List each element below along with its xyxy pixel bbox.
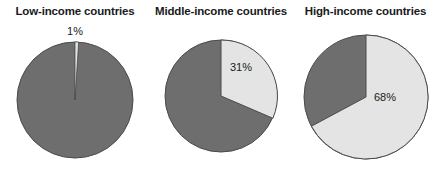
pie-label-high-income: 68% bbox=[374, 91, 396, 103]
pie-svg-low-income bbox=[15, 40, 135, 160]
pie-svg-high-income bbox=[302, 33, 430, 161]
pie-label-middle-income: 31% bbox=[230, 61, 252, 73]
pie-low-income bbox=[0, 40, 150, 160]
panel-title-low-income: Low-income countries bbox=[0, 5, 150, 17]
pie-label-low-income: 1% bbox=[0, 25, 150, 37]
chart-panel-low-income: Low-income countries 1% bbox=[0, 0, 150, 173]
chart-panel-middle-income: Middle-income countries 31% bbox=[148, 0, 294, 173]
pie-svg-middle-income bbox=[163, 38, 279, 154]
pie-middle-income bbox=[148, 38, 294, 154]
pie-high-income bbox=[294, 33, 437, 161]
chart-panel-high-income: High-income countries 68% bbox=[294, 0, 437, 173]
panel-title-high-income: High-income countries bbox=[294, 5, 437, 17]
pie-chart-figure: Low-income countries 1% Middle-income co… bbox=[0, 0, 437, 173]
panel-title-middle-income: Middle-income countries bbox=[148, 5, 294, 17]
